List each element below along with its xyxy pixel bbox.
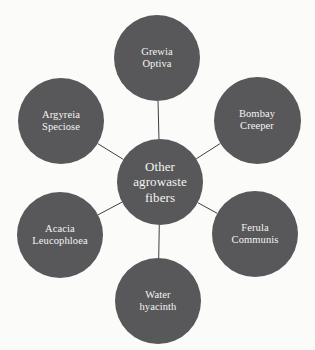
- connector-line-bombay-creeper: [196, 143, 220, 158]
- node-label-argyreia-speciose: Argyreia Speciose: [36, 109, 86, 134]
- node-label-bombay-creeper: Bombay Creeper: [233, 108, 281, 133]
- node-argyreia-speciose[interactable]: Argyreia Speciose: [18, 78, 104, 164]
- connector-line-acacia-leucophloea: [98, 202, 122, 215]
- agrowaste-fibers-diagram: Grewia OptivaBombay CreeperFerula Commun…: [0, 0, 315, 350]
- node-bombay-creeper[interactable]: Bombay Creeper: [214, 77, 301, 164]
- connector-line-water-hyacinth: [159, 225, 160, 258]
- node-label-other-agrowaste-fibers: Other agrowaste fibers: [127, 159, 193, 206]
- node-label-grewia-optiva: Grewia Optiva: [135, 46, 179, 71]
- node-acacia-leucophloea[interactable]: Acacia Leucophloea: [17, 192, 103, 278]
- connector-line-grewia-optiva: [158, 101, 159, 139]
- node-grewia-optiva[interactable]: Grewia Optiva: [114, 15, 200, 101]
- node-water-hyacinth[interactable]: Water hyacinth: [115, 258, 201, 344]
- connector-line-ferula-communis: [198, 203, 218, 214]
- node-label-acacia-leucophloea: Acacia Leucophloea: [26, 223, 93, 248]
- node-ferula-communis[interactable]: Ferula Communis: [212, 191, 298, 277]
- node-label-ferula-communis: Ferula Communis: [226, 222, 285, 247]
- node-label-water-hyacinth: Water hyacinth: [134, 289, 183, 314]
- node-other-agrowaste-fibers[interactable]: Other agrowaste fibers: [117, 139, 203, 225]
- connector-line-argyreia-speciose: [98, 144, 124, 160]
